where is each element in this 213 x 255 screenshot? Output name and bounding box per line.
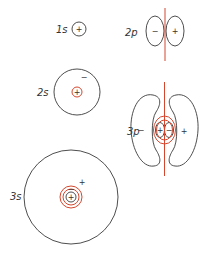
orbital-2s: 2s − + [37, 69, 100, 115]
sign-plus: + [74, 88, 81, 97]
sign-minus-inner: − [166, 126, 173, 135]
label-2s: 2s [37, 87, 49, 98]
orbital-3s: 3s + − + [10, 150, 118, 244]
orbital-1s: 1s + [56, 22, 86, 36]
label-1s: 1s [56, 24, 68, 35]
orbital-3p: 3p − + + − [127, 82, 198, 176]
sign-plus: + [76, 25, 83, 34]
sign-minus: − [152, 27, 159, 36]
orbital-diagram: 1s + 2p − + 2s − + 3p − + + − 3s [0, 0, 213, 255]
sign-minus: − [81, 73, 88, 82]
sign-minus: − [138, 126, 145, 135]
sign-plus: + [79, 178, 86, 187]
sign-plus: + [172, 27, 179, 36]
orbital-2p: 2p − + [125, 8, 184, 61]
label-3s: 3s [10, 191, 22, 202]
sign-plus-inner: + [68, 193, 75, 202]
label-2p: 2p [125, 27, 138, 38]
sign-plus-inner: + [157, 126, 164, 135]
sign-plus: + [181, 127, 188, 136]
